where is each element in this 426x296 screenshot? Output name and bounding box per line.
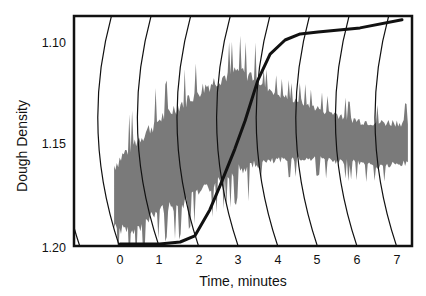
x-tick-label: 2	[196, 253, 203, 267]
y-tick-label: 1.10	[42, 36, 66, 50]
x-tick-label: 1	[156, 253, 163, 267]
x-tick-label: 0	[117, 253, 124, 267]
dough-density-chart: 1.10 1.15 1.20 0 1 2 3 4 5 6 7 Time, min…	[0, 0, 426, 296]
x-tick-label: 4	[275, 253, 282, 267]
y-axis-label: Dough Density	[14, 100, 30, 192]
y-tick-label: 1.20	[42, 241, 66, 255]
x-tick-label: 6	[354, 253, 361, 267]
y-tick-label: 1.15	[42, 137, 66, 151]
x-tick-label: 5	[314, 253, 321, 267]
x-axis-label: Time, minutes	[199, 273, 286, 289]
x-tick-label: 3	[235, 253, 242, 267]
x-tick-label: 7	[394, 253, 401, 267]
